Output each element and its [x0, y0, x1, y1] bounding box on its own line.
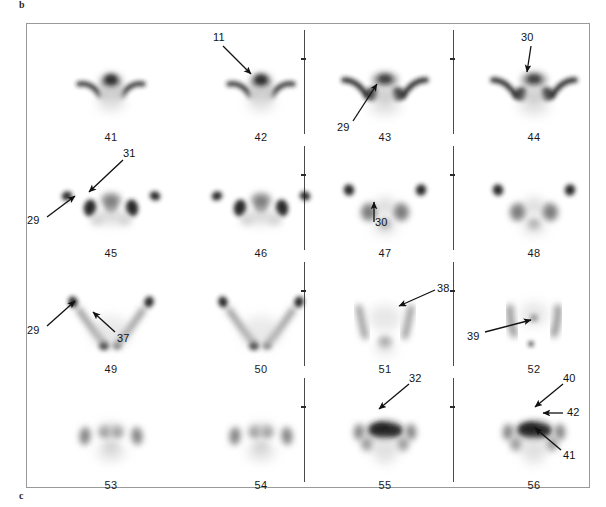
slice-cell[interactable]: 56	[464, 386, 604, 502]
slice-image	[191, 386, 331, 482]
slice-number-label: 53	[41, 479, 181, 491]
slice-cell[interactable]: 44	[464, 38, 604, 154]
slice-number-label: 56	[464, 479, 604, 491]
slice-image	[41, 386, 181, 482]
slice-number-label: 46	[191, 247, 331, 259]
slice-image	[191, 154, 331, 250]
slice-cell[interactable]: 52	[464, 270, 604, 386]
callout-label-a29c: 29	[27, 324, 40, 336]
slice-number-label: 44	[464, 131, 604, 143]
slice-image	[41, 270, 181, 366]
slice-number-label: 52	[464, 363, 604, 375]
slice-cell[interactable]: 45	[41, 154, 181, 270]
slice-image	[464, 270, 604, 366]
slice-image	[464, 386, 604, 482]
slice-number-label: 47	[315, 247, 455, 259]
slice-cell[interactable]: 43	[315, 38, 455, 154]
slice-number-label: 48	[464, 247, 604, 259]
slice-number-label: 43	[315, 131, 455, 143]
slice-number-label: 55	[315, 479, 455, 491]
slice-number-label: 42	[191, 131, 331, 143]
slice-number-label: 54	[191, 479, 331, 491]
slice-cell[interactable]: 55	[315, 386, 455, 502]
slice-image	[464, 38, 604, 134]
slice-number-label: 50	[191, 363, 331, 375]
slice-number-label: 45	[41, 247, 181, 259]
slice-cell[interactable]: 50	[191, 270, 331, 386]
slice-image	[464, 154, 604, 250]
slice-number-label: 51	[315, 363, 455, 375]
slice-cell[interactable]: 48	[464, 154, 604, 270]
slice-cell[interactable]: 54	[191, 386, 331, 502]
figure-part-label-c: c	[19, 490, 23, 501]
slice-image	[191, 38, 331, 134]
slice-image	[41, 154, 181, 250]
slice-cell[interactable]: 46	[191, 154, 331, 270]
figure-part-label-b: b	[19, 0, 25, 10]
slice-image	[315, 270, 455, 366]
scintigraphy-montage-frame: 41424344454647484950515253545556 1129303…	[26, 23, 590, 488]
slice-image	[191, 270, 331, 366]
slice-image	[41, 38, 181, 134]
slice-cell[interactable]: 51	[315, 270, 455, 386]
slice-number-label: 49	[41, 363, 181, 375]
slice-cell[interactable]: 49	[41, 270, 181, 386]
slice-image	[315, 386, 455, 482]
slice-cell[interactable]: 53	[41, 386, 181, 502]
callout-label-a29b: 29	[27, 214, 40, 226]
slice-cell[interactable]: 47	[315, 154, 455, 270]
slice-image	[315, 154, 455, 250]
slice-number-label: 41	[41, 131, 181, 143]
slice-cell[interactable]: 42	[191, 38, 331, 154]
slice-image	[315, 38, 455, 134]
slice-cell[interactable]: 41	[41, 38, 181, 154]
